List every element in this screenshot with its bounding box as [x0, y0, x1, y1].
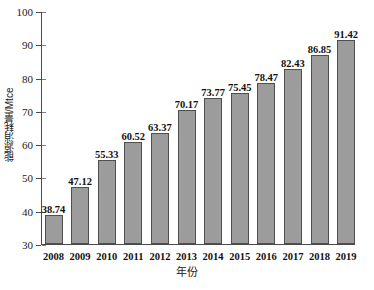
bar-value-label: 55.33 — [84, 149, 130, 160]
bar — [257, 83, 275, 244]
y-axis-tick-inner — [42, 12, 46, 13]
bar-value-label: 60.52 — [110, 131, 156, 142]
y-axis-tick — [36, 245, 41, 246]
bar-value-label: 75.45 — [217, 82, 263, 93]
x-axis-line — [41, 244, 355, 245]
bar-chart: 能源消耗量/Mtce 30405060708090100 38.7447.125… — [0, 0, 374, 290]
x-axis-tick-label: 2019 — [329, 251, 363, 262]
bar — [284, 69, 302, 244]
bar — [204, 98, 222, 244]
bar — [337, 40, 355, 244]
y-axis-tick — [36, 178, 41, 179]
y-axis-title: 能源消耗量/Mtce — [2, 70, 18, 180]
y-axis-tick — [36, 112, 41, 113]
bar — [231, 93, 249, 244]
bar-value-label: 86.85 — [297, 44, 343, 55]
y-axis-tick — [36, 12, 41, 13]
y-axis-tick-label: 40 — [5, 207, 33, 218]
bar-value-label: 82.43 — [270, 58, 316, 69]
bar — [98, 160, 116, 244]
bar-value-label: 38.74 — [31, 204, 77, 215]
y-axis-tick — [36, 45, 41, 46]
bar-value-label: 78.47 — [243, 72, 289, 83]
y-axis-tick-inner — [42, 79, 46, 80]
x-axis-title: 年份 — [0, 266, 374, 278]
y-axis-tick-label: 100 — [5, 7, 33, 18]
bar — [71, 187, 89, 244]
y-axis-tick — [36, 145, 41, 146]
bar — [45, 215, 63, 244]
y-axis-tick-inner — [42, 112, 46, 113]
y-axis-tick-label: 70 — [5, 107, 33, 118]
y-axis-tick-inner — [42, 245, 46, 246]
y-axis-tick — [36, 79, 41, 80]
bar — [311, 55, 329, 244]
bar-value-label: 91.42 — [323, 29, 369, 40]
y-axis-tick-label: 30 — [5, 240, 33, 251]
y-axis-tick-label: 60 — [5, 140, 33, 151]
y-axis-tick-inner — [42, 45, 46, 46]
y-axis-tick-inner — [42, 145, 46, 146]
bar — [151, 133, 169, 244]
bar-value-label: 47.12 — [57, 176, 103, 187]
bar-value-label: 70.17 — [164, 99, 210, 110]
bar-value-label: 63.37 — [137, 122, 183, 133]
y-axis-tick-inner — [42, 178, 46, 179]
y-axis-tick-label: 90 — [5, 40, 33, 51]
y-axis-tick-label: 50 — [5, 173, 33, 184]
y-axis-tick-label: 80 — [5, 74, 33, 85]
